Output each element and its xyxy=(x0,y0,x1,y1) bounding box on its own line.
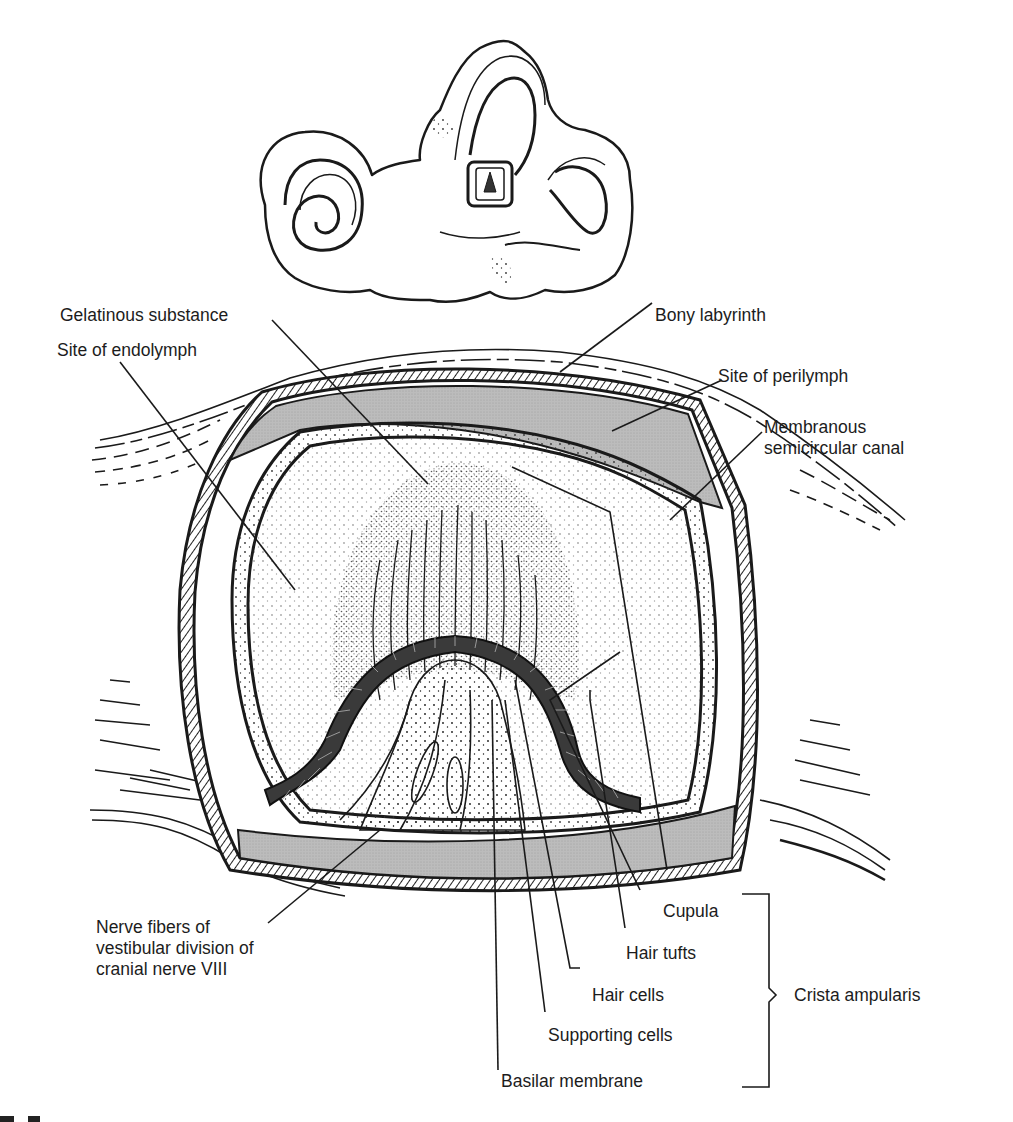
label-line-2: semicircular canal xyxy=(764,438,904,459)
crista-bracket xyxy=(742,894,776,1087)
label-hair-cells: Hair cells xyxy=(592,985,664,1006)
label-hair-tufts: Hair tufts xyxy=(626,943,696,964)
label-membranous-semicircular-canal: Membranous semicircular canal xyxy=(764,417,904,459)
label-site-of-perilymph: Site of perilymph xyxy=(718,366,848,387)
label-nerve-fibers: Nerve fibers of vestibular division of c… xyxy=(96,917,254,980)
label-crista-ampularis: Crista ampularis xyxy=(794,985,920,1006)
label-line-1: Membranous xyxy=(764,417,904,438)
label-line-2: vestibular division of xyxy=(96,938,254,959)
label-line-3: cranial nerve VIII xyxy=(96,959,254,980)
label-basilar-membrane: Basilar membrane xyxy=(501,1071,643,1092)
labyrinth-inset xyxy=(261,41,633,302)
label-cupula: Cupula xyxy=(663,901,718,922)
label-gelatinous-substance: Gelatinous substance xyxy=(60,305,228,326)
label-site-of-endolymph: Site of endolymph xyxy=(57,340,197,361)
label-bony-labyrinth: Bony labyrinth xyxy=(655,305,766,326)
label-line-1: Nerve fibers of xyxy=(96,917,254,938)
label-supporting-cells: Supporting cells xyxy=(548,1025,673,1046)
